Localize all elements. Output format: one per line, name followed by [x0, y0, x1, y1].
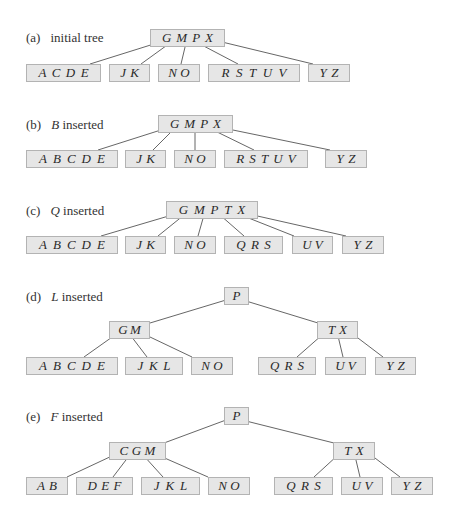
- inserted-key: B: [51, 117, 59, 132]
- panel-d-caption: (d)L inserted: [26, 289, 103, 305]
- panel-tag: (e): [26, 409, 40, 424]
- node-key: X: [205, 30, 213, 46]
- panel-d-node-tx: TX: [317, 321, 358, 339]
- node-key: R: [251, 237, 259, 253]
- node-key: U: [302, 237, 311, 253]
- tree-edge: [222, 42, 313, 64]
- caption-text: inserted: [59, 117, 103, 132]
- node-key: O: [196, 151, 205, 167]
- node-key: G: [132, 443, 141, 459]
- tree-edge: [150, 300, 226, 323]
- node-key: P: [233, 408, 241, 424]
- node-key: P: [200, 116, 208, 132]
- panel-tag: (d): [26, 289, 41, 304]
- node-key: V: [288, 151, 296, 167]
- node-key: K: [149, 358, 158, 374]
- panel-e-caption: (e)F inserted: [26, 409, 103, 425]
- panel-a-caption: (a)initial tree: [26, 30, 104, 46]
- node-key: M: [145, 443, 156, 459]
- tree-edge: [98, 129, 164, 150]
- panel-e-node-ab: AB: [26, 477, 68, 495]
- node-key: Q: [236, 237, 245, 253]
- panel-tag: (a): [26, 30, 40, 45]
- panel-b-node-abcde: ABCDE: [26, 150, 118, 168]
- node-key: T: [261, 151, 268, 167]
- tree-edge: [354, 335, 383, 357]
- panel-e-node-jkl: JKL: [141, 477, 200, 495]
- node-key: X: [339, 322, 347, 338]
- node-key: N: [218, 478, 227, 494]
- node-key: D: [82, 151, 91, 167]
- node-key: L: [163, 358, 170, 374]
- node-key: T: [344, 443, 351, 459]
- node-key: G: [118, 322, 127, 338]
- panel-c-node-qrs: QRS: [224, 236, 283, 254]
- node-key: C: [67, 237, 76, 253]
- tree-edge: [228, 129, 330, 150]
- node-key: N: [184, 151, 193, 167]
- caption-text: inserted: [58, 289, 102, 304]
- tree-edge: [246, 421, 334, 443]
- node-key: V: [279, 65, 287, 81]
- panel-d-node-abcde: ABCDE: [26, 357, 118, 375]
- node-key: S: [264, 237, 271, 253]
- node-key: V: [315, 237, 323, 253]
- node-key: V: [348, 358, 356, 374]
- node-key: R: [301, 478, 309, 494]
- node-key: E: [101, 478, 109, 494]
- node-key: J: [154, 478, 160, 494]
- panel-a-node-gmpx: GMPX: [150, 29, 225, 47]
- node-key: Q: [270, 358, 279, 374]
- tree-edge: [371, 455, 400, 477]
- node-key: C: [67, 151, 76, 167]
- node-key: J: [138, 358, 144, 374]
- node-key: O: [230, 478, 239, 494]
- panel-c-caption: (c)Q inserted: [26, 203, 104, 219]
- tree-edge: [131, 336, 147, 357]
- node-key: J: [136, 151, 142, 167]
- node-key: S: [249, 151, 256, 167]
- node-key: A: [39, 237, 47, 253]
- panel-e-node-uv: UV: [341, 477, 383, 495]
- panel-e-node-tx: TX: [333, 442, 375, 460]
- node-key: K: [130, 65, 139, 81]
- panel-a-node-acde: ACDE: [26, 64, 101, 82]
- node-key: G: [170, 116, 179, 132]
- panel-b-node-yz: YZ: [325, 150, 367, 168]
- node-key: D: [82, 358, 91, 374]
- node-key: A: [39, 358, 47, 374]
- panel-tag: (c): [26, 203, 40, 218]
- node-key: U: [273, 151, 282, 167]
- node-key: F: [114, 478, 122, 494]
- node-key: Z: [398, 358, 405, 374]
- node-key: D: [87, 478, 96, 494]
- node-key: U: [352, 478, 361, 494]
- node-key: C: [52, 65, 61, 81]
- node-key: B: [53, 358, 61, 374]
- panel-a-node-jk: JK: [109, 64, 150, 82]
- node-key: A: [39, 151, 47, 167]
- node-key: K: [146, 151, 155, 167]
- panel-d-node-yz: YZ: [375, 357, 416, 375]
- node-key: M: [184, 116, 195, 132]
- node-key: K: [146, 237, 155, 253]
- panel-b-node-jk: JK: [125, 150, 166, 168]
- node-key: N: [184, 237, 193, 253]
- panel-b-node-rstuv: RSTUV: [224, 150, 308, 168]
- node-key: V: [364, 478, 372, 494]
- node-key: C: [120, 443, 129, 459]
- panel-c-node-yz: YZ: [342, 236, 384, 254]
- node-key: M: [194, 202, 205, 218]
- caption-text: initial tree: [50, 30, 103, 45]
- panel-tag: (b): [26, 117, 41, 132]
- node-key: Z: [414, 478, 421, 494]
- panel-c-node-uv: UV: [292, 236, 333, 254]
- panel-a-node-no: NO: [158, 64, 200, 82]
- node-key: G: [179, 202, 188, 218]
- node-key: Y: [354, 237, 361, 253]
- node-key: J: [120, 65, 126, 81]
- node-key: K: [165, 478, 174, 494]
- panel-c-node-gmptx: GMPTX: [166, 201, 258, 219]
- panel-e-node-def: DEF: [76, 477, 133, 495]
- node-key: S: [314, 478, 321, 494]
